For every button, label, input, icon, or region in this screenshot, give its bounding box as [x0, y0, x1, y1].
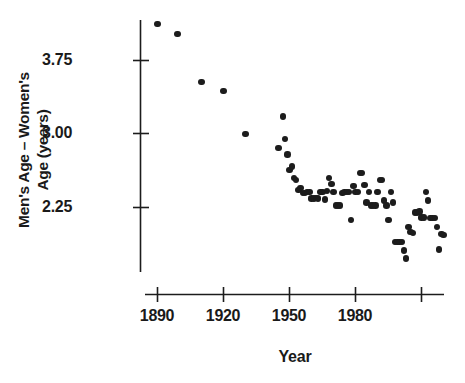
axis-lines [0, 0, 465, 383]
scatter-point [372, 202, 378, 208]
scatter-point [280, 113, 286, 119]
scatter-point [242, 131, 248, 137]
scatter-point [275, 145, 281, 151]
scatter-point [174, 31, 180, 37]
scatter-point [440, 232, 446, 238]
scatter-point [403, 255, 409, 261]
scatter-point [330, 189, 336, 195]
scatter-point [423, 189, 429, 195]
scatter-point [198, 79, 204, 85]
scatter-point [346, 189, 352, 195]
scatter-point [324, 188, 330, 194]
scatter-point [390, 199, 396, 205]
scatter-point [401, 247, 407, 253]
scatter-point [306, 189, 312, 195]
scatter-point [328, 181, 334, 187]
scatter-point [322, 196, 328, 202]
scatter-point [421, 214, 427, 220]
scatter-point [383, 202, 389, 208]
scatter-point [436, 246, 442, 252]
scatter-plot-figure: Men's Age – Women's Age (years) 3.75 3.0… [0, 0, 465, 383]
scatter-point [220, 88, 226, 94]
scatter-point [374, 189, 380, 195]
scatter-point [410, 230, 416, 236]
scatter-point [337, 202, 343, 208]
scatter-point [361, 182, 367, 188]
scatter-point [366, 189, 372, 195]
scatter-point [284, 151, 290, 157]
scatter-point [388, 189, 394, 195]
scatter-point [425, 197, 431, 203]
scatter-point [355, 189, 361, 195]
scatter-point [289, 163, 295, 169]
scatter-point [399, 239, 405, 245]
